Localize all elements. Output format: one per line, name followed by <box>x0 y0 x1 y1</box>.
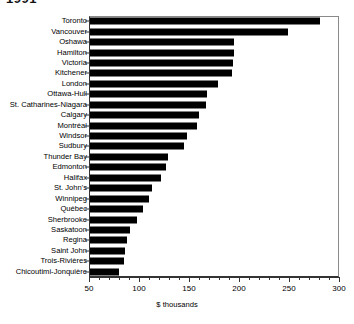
x-tick-minor <box>99 277 100 280</box>
bar-row: Trois-Rivières <box>0 256 354 266</box>
bar <box>90 91 207 98</box>
bar-row: Chicoutimi-Jonquière <box>0 267 354 277</box>
category-label: London <box>62 80 87 88</box>
category-tick <box>85 125 89 126</box>
bar-row: Sudbury <box>0 141 354 151</box>
chart-title: 1991 <box>6 0 37 6</box>
category-label: Edmonton <box>52 163 87 171</box>
bar-row: Regina <box>0 235 354 245</box>
category-tick <box>85 209 89 210</box>
bar-row: Victoria <box>0 58 354 68</box>
category-label: Windsor <box>59 132 87 140</box>
category-tick <box>85 21 89 22</box>
category-tick <box>85 167 89 168</box>
category-tick <box>85 52 89 53</box>
category-tick <box>85 271 89 272</box>
category-label: Thunder Bay <box>44 153 87 161</box>
category-label: Oshawa <box>59 38 87 46</box>
x-tick-label: 300 <box>332 284 345 293</box>
x-tick-minor <box>249 277 250 280</box>
x-tick-minor <box>209 277 210 280</box>
category-label: Vancouver <box>51 28 87 36</box>
category-tick <box>85 62 89 63</box>
bar <box>90 185 152 192</box>
bar <box>90 153 168 160</box>
category-label: Ottawa-Hull <box>47 90 87 98</box>
category-label: Halifax <box>64 174 87 182</box>
bar-row: Saskatoon <box>0 225 354 235</box>
category-tick <box>85 230 89 231</box>
x-tick-minor <box>309 277 310 280</box>
bar-row: St. Catharines-Niagara <box>0 100 354 110</box>
x-tick-minor <box>169 277 170 280</box>
x-tick-label: 200 <box>232 284 245 293</box>
bar <box>90 59 233 66</box>
category-tick <box>85 219 89 220</box>
category-label: Saskatoon <box>51 226 87 234</box>
bar-row: Saint John <box>0 246 354 256</box>
x-tick-label: 150 <box>182 284 195 293</box>
bar <box>90 143 184 150</box>
bar <box>90 133 187 140</box>
x-tick-minor <box>319 277 320 280</box>
x-axis-title: $ thousands <box>0 300 354 309</box>
category-label: Victoria <box>62 59 87 67</box>
category-tick <box>85 83 89 84</box>
x-tick-minor <box>109 277 110 280</box>
category-tick <box>85 146 89 147</box>
bar-row: Halifax <box>0 173 354 183</box>
bar-row: Vancouver <box>0 26 354 36</box>
bar-row: Edmonton <box>0 162 354 172</box>
category-tick <box>85 115 89 116</box>
category-tick <box>85 188 89 189</box>
category-tick <box>85 177 89 178</box>
bar <box>90 39 234 46</box>
category-label: Sherbrooke <box>48 216 87 224</box>
bar <box>90 49 234 56</box>
bar-row: Oshawa <box>0 37 354 47</box>
bar <box>90 80 218 87</box>
category-label: Sudbury <box>59 142 87 150</box>
x-tick-minor <box>159 277 160 280</box>
x-tick-minor <box>199 277 200 280</box>
category-label: Hamilton <box>57 49 87 57</box>
x-tick-minor <box>149 277 150 280</box>
bar-rows-container: TorontoVancouverOshawaHamiltonVictoriaKi… <box>0 16 354 277</box>
category-label: Toronto <box>62 17 87 25</box>
bar <box>90 174 161 181</box>
category-tick <box>85 240 89 241</box>
bar <box>90 18 320 25</box>
category-tick <box>85 261 89 262</box>
x-tick-major <box>289 277 290 282</box>
x-tick-major <box>189 277 190 282</box>
x-tick-label: 250 <box>282 284 295 293</box>
bar <box>90 164 166 171</box>
bar-row: Montréal <box>0 120 354 130</box>
bar <box>90 101 206 108</box>
bar-row: Toronto <box>0 16 354 26</box>
x-tick-major <box>89 277 90 282</box>
x-tick-minor <box>219 277 220 280</box>
bar <box>90 247 125 254</box>
bar <box>90 122 197 129</box>
category-tick <box>85 250 89 251</box>
category-label: St. Catharines-Niagara <box>10 101 87 109</box>
category-label: Saint John <box>51 247 87 255</box>
category-label: Montréal <box>57 122 87 130</box>
x-tick-label: 50 <box>85 284 94 293</box>
bar <box>90 70 232 77</box>
x-tick-major <box>339 277 340 282</box>
category-tick <box>85 136 89 137</box>
bar <box>90 195 149 202</box>
category-label: St. John's <box>54 184 87 192</box>
category-tick <box>85 42 89 43</box>
x-tick-minor <box>329 277 330 280</box>
bar-row: Thunder Bay <box>0 152 354 162</box>
x-tick-minor <box>299 277 300 280</box>
category-tick <box>85 94 89 95</box>
x-tick-major <box>139 277 140 282</box>
bar-row: Québec <box>0 204 354 214</box>
category-tick <box>85 156 89 157</box>
x-tick-minor <box>179 277 180 280</box>
category-label: Trois-Rivières <box>40 257 87 265</box>
